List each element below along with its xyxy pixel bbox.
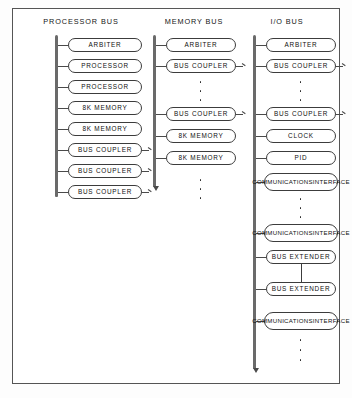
node-label-line-2: INTERFACE xyxy=(313,178,350,185)
bus-line-io-bus-segment-1 xyxy=(253,35,256,291)
connector-stub xyxy=(256,158,266,159)
node-label-line-1: COMMUNICATIONS xyxy=(252,317,313,324)
node-arbiter[interactable]: ARBITER xyxy=(266,38,336,52)
connector-stub xyxy=(58,192,68,193)
coupler-tail-icon xyxy=(142,192,149,193)
column-header-processor-bus: PROCESSOR BUS xyxy=(21,17,141,26)
diagram-page: PROCESSOR BUS MEMORY BUS I/O BUS ARBITER… xyxy=(0,0,352,398)
connector-stub xyxy=(58,150,68,151)
ellipsis-vertical xyxy=(199,81,202,101)
node-communications-interface[interactable]: COMMUNICATIONS INTERFACE xyxy=(264,312,338,330)
connector-stub xyxy=(58,87,68,88)
node-arbiter[interactable]: ARBITER xyxy=(166,38,236,52)
node-arbiter[interactable]: ARBITER xyxy=(68,38,142,52)
connector-stub xyxy=(58,171,68,172)
ellipsis-vertical xyxy=(299,339,302,361)
node-8k-memory[interactable]: 8K MEMORY xyxy=(68,122,142,136)
connector-stub xyxy=(256,66,266,67)
connector-stub xyxy=(256,257,266,258)
column-header-memory-bus: MEMORY BUS xyxy=(139,17,249,26)
node-communications-interface[interactable]: COMMUNICATIONS INTERFACE xyxy=(264,173,338,191)
node-8k-memory[interactable]: 8K MEMORY xyxy=(166,129,236,143)
node-bus-coupler[interactable]: BUS COUPLER xyxy=(166,107,236,121)
connector-stub xyxy=(58,45,68,46)
coupler-tail-icon xyxy=(336,114,343,115)
node-clock[interactable]: CLOCK xyxy=(266,129,336,143)
connector-stub xyxy=(256,45,266,46)
ellipsis-vertical xyxy=(299,198,302,218)
node-label-line-2: INTERFACE xyxy=(313,317,350,324)
bus-terminator-arrow-icon xyxy=(153,186,159,191)
ellipsis-vertical xyxy=(199,179,202,199)
node-bus-coupler[interactable]: BUS COUPLER xyxy=(68,143,142,157)
node-communications-interface[interactable]: COMMUNICATIONS INTERFACE xyxy=(264,224,338,242)
node-label-line-1: COMMUNICATIONS xyxy=(252,229,313,236)
connector-stub xyxy=(156,66,166,67)
node-label-line-1: COMMUNICATIONS xyxy=(252,178,313,185)
coupler-tail-icon xyxy=(142,150,149,151)
node-8k-memory[interactable]: 8K MEMORY xyxy=(68,101,142,115)
coupler-tail-icon xyxy=(142,171,149,172)
node-bus-extender[interactable]: BUS EXTENDER xyxy=(266,282,336,296)
connector-stub xyxy=(256,289,266,290)
node-bus-extender[interactable]: BUS EXTENDER xyxy=(266,250,336,264)
node-label-line-2: INTERFACE xyxy=(313,229,350,236)
node-bus-coupler[interactable]: BUS COUPLER xyxy=(266,59,336,73)
bus-terminator-arrow-icon xyxy=(253,368,259,373)
diagram-frame: PROCESSOR BUS MEMORY BUS I/O BUS ARBITER… xyxy=(12,8,340,384)
coupler-tail-icon xyxy=(336,66,343,67)
connector-stub xyxy=(58,66,68,67)
bus-line-processor-bus xyxy=(55,35,58,197)
node-bus-coupler[interactable]: BUS COUPLER xyxy=(166,59,236,73)
connector-stub xyxy=(156,114,166,115)
node-bus-coupler[interactable]: BUS COUPLER xyxy=(68,164,142,178)
node-bus-coupler[interactable]: BUS COUPLER xyxy=(266,107,336,121)
connector-stub xyxy=(58,108,68,109)
node-bus-coupler[interactable]: BUS COUPLER xyxy=(68,185,142,199)
coupler-tail-icon xyxy=(236,66,243,67)
connector-stub xyxy=(156,45,166,46)
column-header-io-bus: I/O BUS xyxy=(239,17,335,26)
connector-stub xyxy=(256,136,266,137)
node-8k-memory[interactable]: 8K MEMORY xyxy=(166,151,236,165)
node-pid[interactable]: PID xyxy=(266,151,336,165)
connector-stub xyxy=(256,114,266,115)
node-processor[interactable]: PROCESSOR xyxy=(68,59,142,73)
connector-stub xyxy=(58,129,68,130)
coupler-tail-icon xyxy=(236,114,243,115)
ellipsis-vertical xyxy=(299,81,302,101)
connector-stub xyxy=(156,136,166,137)
bus-extender-link xyxy=(301,264,302,282)
node-processor[interactable]: PROCESSOR xyxy=(68,80,142,94)
bus-line-memory-bus xyxy=(153,35,156,187)
connector-stub xyxy=(156,158,166,159)
